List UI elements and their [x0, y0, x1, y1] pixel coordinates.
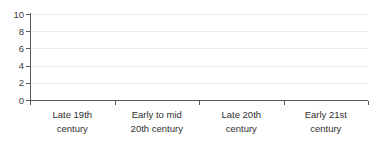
y-tick-mark-8 — [26, 31, 30, 32]
chart-figure: 10 8 6 4 2 0 Late 19th century Early to … — [0, 0, 379, 150]
y-tick-label-2: 2 — [0, 78, 24, 88]
x-tick-label-late-19th-century: Late 19th century — [30, 108, 115, 135]
x-tick-label-line-1: Early 21st — [284, 108, 369, 122]
x-tick-label-line-2: century — [284, 122, 369, 136]
y-tick-mark-2 — [26, 83, 30, 84]
x-tick-label-late-20th-century: Late 20th century — [199, 108, 284, 135]
x-tick-label-early-21st-century: Early 21st century — [284, 108, 369, 135]
gridline-6 — [30, 48, 368, 49]
x-tick-label-line-2: 20th century — [115, 122, 200, 136]
gridline-2 — [30, 83, 368, 84]
gridline-10 — [30, 14, 368, 15]
x-tick-label-line-1: Early to mid — [115, 108, 200, 122]
x-tick-label-line-2: century — [199, 122, 284, 136]
x-tick-mark-1 — [115, 101, 116, 105]
y-tick-label-4: 4 — [0, 61, 24, 71]
y-tick-mark-6 — [26, 48, 30, 49]
y-tick-label-10: 10 — [0, 10, 24, 20]
x-tick-mark-3 — [284, 101, 285, 105]
y-tick-label-0: 0 — [0, 96, 24, 106]
y-tick-label-6: 6 — [0, 44, 24, 54]
gridline-4 — [30, 66, 368, 67]
plot-area — [30, 14, 368, 100]
y-tick-label-8: 8 — [0, 27, 24, 37]
x-tick-label-line-2: century — [30, 122, 115, 136]
x-tick-mark-0 — [30, 101, 31, 105]
x-tick-label-early-to-mid-20th-century: Early to mid 20th century — [115, 108, 200, 135]
x-tick-mark-4 — [368, 101, 369, 105]
x-tick-label-line-1: Late 20th — [199, 108, 284, 122]
y-tick-mark-10 — [26, 14, 30, 15]
x-tick-label-line-1: Late 19th — [30, 108, 115, 122]
x-tick-mark-2 — [199, 101, 200, 105]
gridline-8 — [30, 31, 368, 32]
y-tick-mark-4 — [26, 66, 30, 67]
y-axis-spine — [30, 13, 31, 101]
